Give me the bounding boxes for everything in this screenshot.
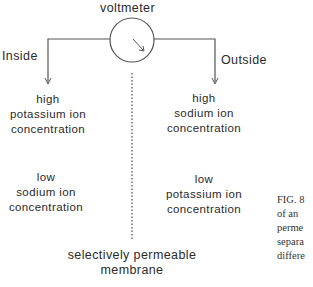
- right-wire: [154, 39, 215, 82]
- inside-bottom-line: sodium ion: [2, 185, 90, 200]
- inside-top-line: potassium ion: [2, 107, 94, 122]
- voltmeter-needle: [133, 39, 143, 50]
- outside-bottom-line: concentration: [160, 202, 248, 217]
- left-wire: [48, 39, 110, 82]
- caption-line: separa: [277, 235, 313, 249]
- caption-line: perme: [277, 221, 313, 235]
- outside-bottom-line: potassium ion: [160, 187, 248, 202]
- circuit-diagram: [0, 0, 313, 287]
- voltmeter-icon: [110, 18, 154, 62]
- membrane-label-line: selectively permeable: [58, 248, 206, 263]
- membrane-label-line: membrane: [58, 263, 206, 278]
- outside-top-line: high: [160, 91, 248, 106]
- caption-line: FIG. 8: [277, 193, 313, 207]
- inside-label: Inside: [2, 49, 38, 64]
- outside-label: Outside: [221, 53, 267, 68]
- outside-top-text: high sodium ion concentration: [160, 91, 248, 136]
- outside-top-line: concentration: [160, 121, 248, 136]
- inside-bottom-text: low sodium ion concentration: [2, 170, 90, 215]
- inside-top-line: concentration: [2, 122, 94, 137]
- inside-top-text: high potassium ion concentration: [2, 92, 94, 137]
- outside-top-line: sodium ion: [160, 106, 248, 121]
- outside-bottom-text: low potassium ion concentration: [160, 172, 248, 217]
- inside-bottom-line: low: [2, 170, 90, 185]
- inside-bottom-line: concentration: [2, 200, 90, 215]
- caption-line: differe: [277, 249, 313, 263]
- membrane-label: selectively permeable membrane: [58, 248, 206, 278]
- caption-line: of an: [277, 207, 313, 221]
- voltmeter-label: voltmeter: [100, 1, 155, 16]
- outside-bottom-line: low: [160, 172, 248, 187]
- figure-caption-fragment: FIG. 8 of an perme separa differe: [277, 193, 313, 263]
- inside-top-line: high: [2, 92, 94, 107]
